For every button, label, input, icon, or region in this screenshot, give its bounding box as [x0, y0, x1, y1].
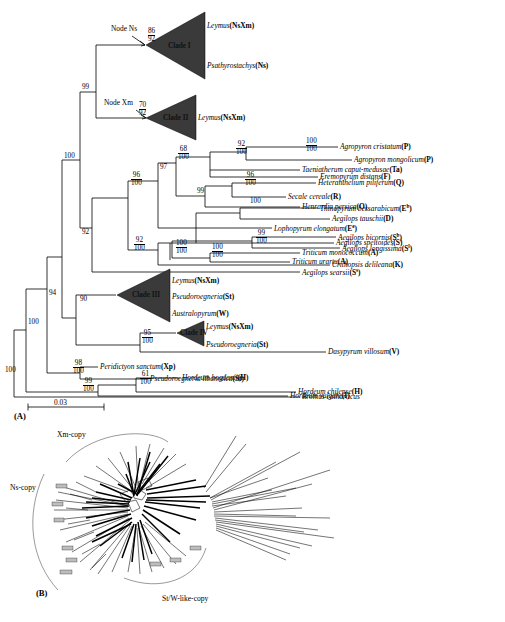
- tip-heteranthelium-piliferum: Heteranthelium piliferum(Q): [318, 179, 404, 186]
- support-100-root: 100: [5, 367, 16, 374]
- support-bottom: 100: [131, 179, 142, 187]
- support-bottom: 92: [139, 109, 146, 117]
- support-100-upper: 100: [64, 153, 75, 160]
- clade1-taxon-psathyrostachys: Psathyrostachys(Ns): [207, 62, 268, 69]
- clade2-taxon-leymus: Leymus(NsXm): [198, 114, 245, 121]
- tip-dasypyrum-villosum: Dasypyrum villosum(V): [328, 348, 399, 355]
- support-thinopyrum-tauschii: 100: [250, 198, 261, 205]
- support-bottom: 100: [245, 179, 256, 187]
- support-top: 100: [64, 153, 75, 160]
- node-label-ns: Node Ns: [111, 24, 137, 33]
- support-90-clade3: 90: [80, 296, 87, 303]
- tip-peridictyon-sanctum: Peridictyon sanctum(Xp): [100, 363, 175, 370]
- tip-aegilops-bicornis: Aegilops bicornis(Sb): [338, 233, 402, 242]
- support-92-left: 92: [82, 229, 89, 236]
- clade4-taxon-leymus: Leymus(NsXm): [206, 323, 253, 330]
- support-100-mid: 100: [28, 319, 39, 326]
- panel-a-label: (A): [14, 411, 26, 421]
- support-top: 86: [148, 28, 155, 35]
- support-bottom: 100: [176, 247, 187, 255]
- support-top: 99: [82, 84, 89, 91]
- tip-agropyron-cristatum: Agropyron cristatum(P): [340, 143, 411, 150]
- support-top: 92: [82, 229, 89, 236]
- support-top: 94: [49, 290, 56, 297]
- panel-b-label: (B): [36, 588, 47, 598]
- support-99-henrardia: 99: [197, 188, 204, 195]
- tip-agropyron-mongolicum: Agropyron mongolicum(P): [354, 156, 433, 163]
- support-100-100-sgroup: 100 100: [176, 240, 187, 256]
- support-top: 100: [5, 367, 16, 374]
- network-label-stw-copy: St/W-like-copy: [162, 594, 208, 603]
- clade3-taxon-australopyrum: Australopyrum(W): [172, 310, 229, 317]
- network-label-xm-copy: Xm-copy: [57, 430, 86, 439]
- support-bottom: 100: [306, 145, 317, 153]
- support-top: 100: [176, 240, 187, 247]
- support-top: 68: [178, 146, 189, 153]
- support-94: 94: [49, 290, 56, 297]
- support-top: 99: [256, 230, 267, 237]
- support-clade1-clade2: 99: [82, 84, 89, 91]
- tip-thinopyrum-bessarabicum: Thinopyrum bessarabicum(Eb): [320, 204, 412, 213]
- scale-bar-value: 0.03: [54, 398, 67, 407]
- clade-3-label: Clade III: [132, 291, 160, 299]
- figure-phylogenetic-tree: 86 92 70 92 99 100 100 92 100 68 100 96 …: [0, 0, 505, 622]
- support-agropyron-pair: 100 100: [306, 138, 317, 154]
- clade3-taxon-pseudoroegneria: Pseudoroegneria(St): [172, 293, 234, 300]
- support-top: 97: [160, 164, 167, 171]
- support-99-100-hordeum: 99 100: [83, 378, 94, 394]
- support-top: 95: [142, 330, 153, 337]
- support-bottom: 100: [212, 251, 223, 259]
- support-95-100-clade4: 95 100: [142, 330, 153, 346]
- support-top: 92: [236, 141, 247, 148]
- network-label-ns-copy: Ns-copy: [10, 483, 36, 492]
- tip-bromus-catharticus: Bromus catharticus: [302, 393, 360, 400]
- support-top: 100: [306, 138, 317, 145]
- support-top: 99: [83, 378, 94, 385]
- network-svg: [0, 422, 505, 622]
- clade-4-label: Clade IV: [180, 329, 208, 337]
- support-top: 100: [212, 244, 223, 251]
- support-100-100-monococcum: 100 100: [212, 244, 223, 260]
- clade3-taxon-leymus: Leymus(NsXm): [172, 277, 219, 284]
- support-top: 96: [245, 172, 256, 179]
- tip-aegilops-searsii: Aegilops searsii(Ss): [302, 268, 361, 277]
- support-top: 100: [28, 319, 39, 326]
- support-top: 98: [73, 360, 84, 367]
- support-68-100: 68 100: [178, 146, 189, 162]
- support-agropyron-clade: 92 100: [236, 141, 247, 157]
- tip-lophopyrum-elongatum: Lophopyrum elongatum(Ee): [274, 224, 357, 233]
- clade-1-label: Clade I: [168, 42, 191, 50]
- clade1-taxon-leymus: Leymus(NsXm): [207, 22, 254, 29]
- support-92-100-triticum-group: 92 100: [134, 237, 145, 253]
- support-top: 90: [80, 296, 87, 303]
- support-bottom: 100: [236, 148, 247, 156]
- support-bottom: 92: [148, 35, 155, 43]
- support-top: 96: [131, 172, 142, 179]
- support-top: 99: [197, 188, 204, 195]
- support-top: 100: [250, 198, 261, 205]
- tip-aegilops-tauschii: Aegilops tauschii(D): [332, 215, 393, 222]
- support-heteranthelium-secale: 96 100: [245, 172, 256, 188]
- support-bottom: 100: [178, 153, 189, 161]
- support-node-xm: 70 92: [139, 102, 146, 118]
- tip-hordeum-bogdanii: Hordeum bogdanii(H): [182, 374, 248, 381]
- support-node-ns: 86 92: [148, 28, 155, 44]
- node-label-xm: Node Xm: [104, 98, 133, 107]
- support-bottom: 100: [134, 244, 145, 252]
- tip-secale-cereale: Secale cereale(R): [288, 193, 341, 200]
- support-top: 92: [134, 237, 145, 244]
- tip-triticum-monococcum: Triticum monococcum(A): [302, 249, 378, 256]
- clade4-taxon-pseudoroegneria: Pseudoroegneria(St): [206, 341, 268, 348]
- clade-2-label: Clade II: [163, 114, 188, 122]
- support-96-100-main: 96 100: [131, 172, 142, 188]
- support-bottom: 100: [256, 237, 267, 245]
- support-top: 70: [139, 102, 146, 109]
- support-bicornis-longissima: 99 100: [256, 230, 267, 246]
- support-97: 97: [160, 164, 167, 171]
- support-bottom: 100: [73, 367, 84, 375]
- support-bottom: 100: [83, 385, 94, 393]
- support-98-100-peridictyon: 98 100: [73, 360, 84, 376]
- support-bottom: 100: [142, 337, 153, 345]
